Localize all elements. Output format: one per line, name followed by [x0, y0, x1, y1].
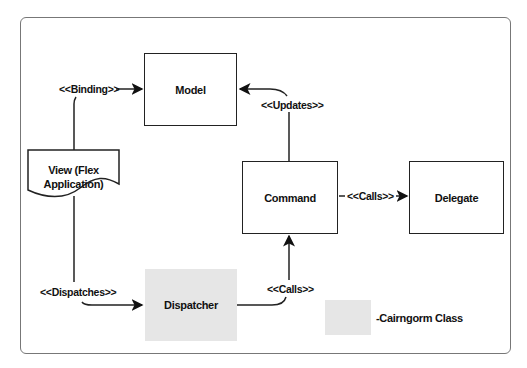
binding-label: <<Binding>> [59, 83, 119, 95]
command-node: Command [242, 161, 338, 234]
legend-swatch [325, 300, 371, 335]
view-label-line2: Application) [27, 177, 120, 191]
delegate-node: Delegate [409, 161, 504, 234]
view-label-line1: View (Flex [27, 163, 120, 177]
dispatcher-label: Dispatcher [164, 299, 218, 311]
view-node-label: View (Flex Application) [27, 163, 120, 191]
dispatches-label: <<Dispatches>> [40, 286, 116, 298]
updates-label: <<Updates>> [261, 99, 324, 111]
command-label: Command [264, 192, 316, 204]
calls-delegate-label: <<Calls>> [347, 190, 394, 202]
model-node: Model [144, 53, 237, 126]
dispatcher-node: Dispatcher [145, 269, 237, 341]
delegate-label: Delegate [435, 192, 478, 204]
calls-command-label: <<Calls>> [267, 283, 314, 295]
model-label: Model [175, 84, 205, 96]
legend-label: -Cairngorm Class [376, 312, 463, 324]
